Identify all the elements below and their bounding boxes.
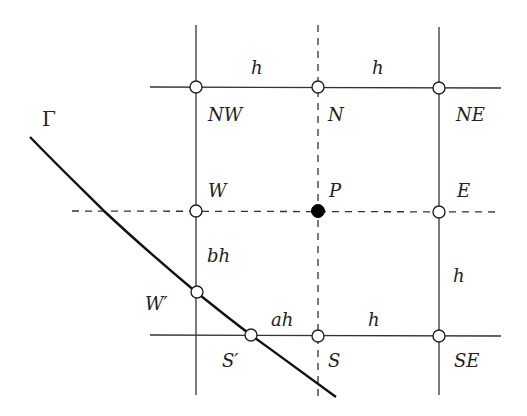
node-label-se: SE — [454, 350, 479, 371]
boundary-curve — [30, 137, 336, 397]
node-w-prime — [191, 286, 203, 298]
node-label-p: P — [328, 180, 342, 201]
node-label-w-prime: W′ — [145, 293, 168, 314]
spacing-label-h-top-left: h — [251, 57, 263, 78]
node-n — [312, 81, 324, 93]
node-s-prime — [245, 329, 257, 341]
node-label-ne: NE — [455, 104, 485, 125]
gamma-label: Γ — [42, 107, 56, 131]
spacing-label-bh: bh — [207, 245, 230, 266]
node-label-n: N — [327, 104, 345, 125]
spacing-label-ah: ah — [271, 309, 293, 330]
node-label-nw: NW — [207, 104, 244, 125]
spacing-label-h-top-right: h — [372, 57, 384, 78]
grid-line-south — [150, 335, 501, 336]
spacing-label-h-right: h — [453, 265, 465, 286]
node-ne — [433, 82, 445, 94]
spacing-label-h-bottom: h — [368, 309, 380, 330]
node-w — [190, 205, 202, 217]
node-s — [312, 330, 324, 342]
node-se — [433, 330, 445, 342]
node-label-e: E — [456, 180, 470, 201]
node-p — [312, 205, 325, 218]
node-label-s: S — [328, 350, 340, 371]
stencil-diagram: Γ h h NW N NE W P E bh h W′ ah h S′ S SE — [0, 0, 527, 416]
node-e — [433, 206, 445, 218]
node-label-s-prime: S′ — [222, 350, 238, 371]
node-nw — [190, 81, 202, 93]
node-label-w: W — [208, 180, 228, 201]
